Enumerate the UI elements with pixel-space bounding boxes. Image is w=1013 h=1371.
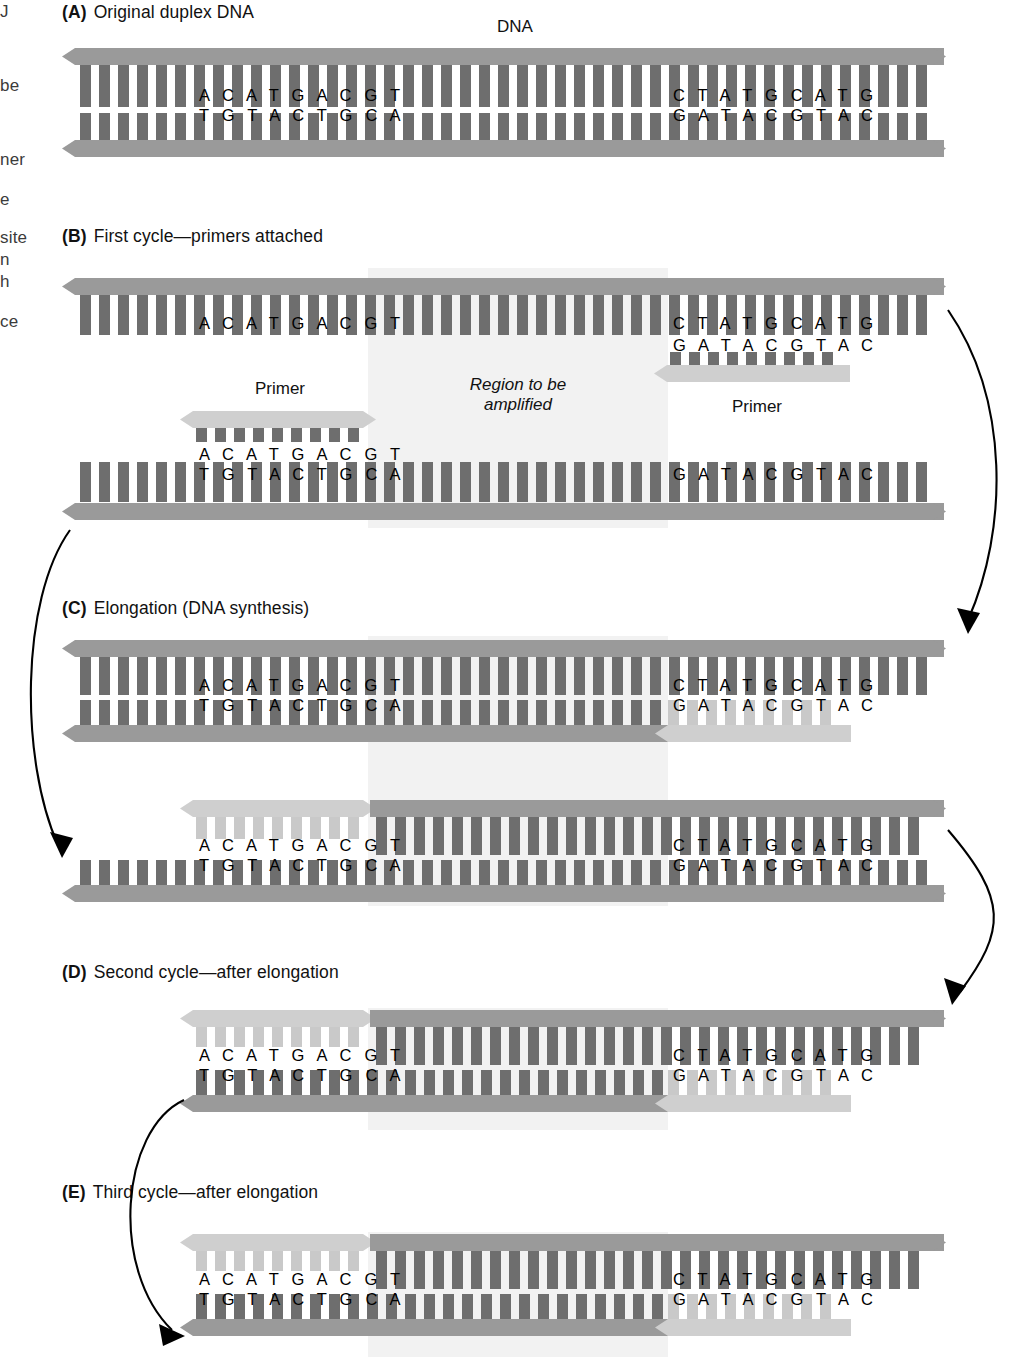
flow-arrow-b-to-c-right — [0, 0, 1013, 1371]
flow-arrow-path — [130, 1100, 184, 1330]
flow-arrow-head — [957, 608, 980, 634]
flow-arrow-head — [159, 1324, 185, 1346]
flow-arrow-path — [948, 830, 994, 992]
flow-arrow-path — [948, 310, 997, 620]
flow-arrow-path — [31, 530, 70, 845]
pcr-figure: J be ner e site n h ce AOriginal duplex … — [0, 0, 1013, 1371]
flow-arrow-head — [50, 832, 73, 858]
flow-arrow-head — [944, 978, 966, 1005]
